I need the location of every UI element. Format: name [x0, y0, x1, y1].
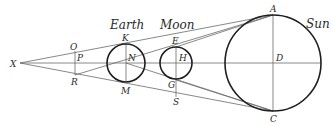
eclipse-geometry-diagram: Earth Moon Sun X O P R K N M E H G S A D… — [0, 0, 333, 127]
line-xc — [20, 63, 273, 111]
point-d: D — [275, 53, 283, 63]
point-s: S — [173, 97, 179, 107]
point-h: H — [178, 53, 187, 63]
label-sun: Sun — [306, 17, 330, 31]
point-m: M — [120, 86, 131, 96]
line-xa — [20, 15, 273, 63]
point-n: N — [127, 53, 137, 63]
label-earth: Earth — [109, 18, 144, 32]
point-g: G — [168, 80, 175, 90]
point-k: K — [121, 33, 130, 43]
point-p: P — [76, 53, 84, 63]
point-c: C — [270, 114, 277, 124]
point-x: X — [9, 59, 17, 69]
point-a: A — [269, 4, 277, 14]
point-e: E — [171, 36, 179, 46]
point-o: O — [70, 42, 78, 52]
point-r: R — [70, 77, 78, 87]
label-moon: Moon — [159, 18, 194, 32]
